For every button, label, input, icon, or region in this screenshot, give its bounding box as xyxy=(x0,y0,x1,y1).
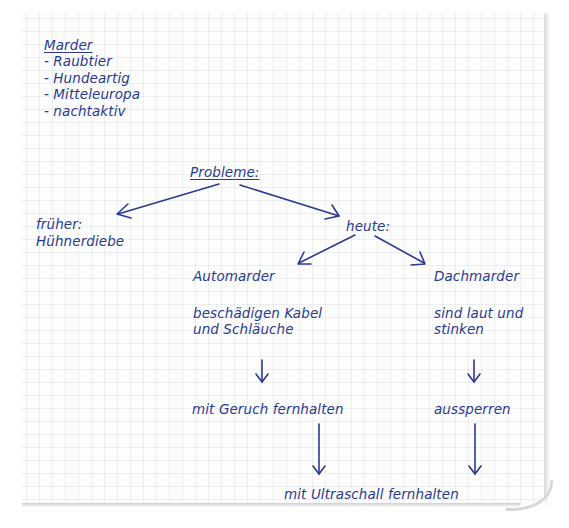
shared-solution: mit Ultraschall fernhalten xyxy=(284,486,459,503)
dachmarder-solution: aussperren xyxy=(434,401,511,418)
automarder-problem-line: beschädigen Kabel xyxy=(193,305,322,322)
node-automarder: Automarder xyxy=(193,268,275,285)
trait-item: - Raubtier xyxy=(44,53,112,70)
paper-corner-curl xyxy=(506,480,553,511)
node-past-label: früher: xyxy=(36,216,83,233)
automarder-solution: mit Geruch fernhalten xyxy=(192,401,344,418)
note-heading: Marder xyxy=(44,37,93,54)
trait-item: - Hundeartig xyxy=(44,70,130,87)
root-node-probleme: Probleme: xyxy=(190,164,259,181)
dachmarder-problem-line: stinken xyxy=(434,321,484,338)
node-present-label: heute: xyxy=(346,218,390,235)
trait-item: - Mitteleuropa xyxy=(44,86,140,103)
node-past-detail: Hühnerdiebe xyxy=(36,233,124,250)
automarder-problem-line: und Schläuche xyxy=(193,321,294,338)
paper-edge-shadow-right xyxy=(544,14,550,496)
dachmarder-problem-line: sind laut und xyxy=(434,305,523,322)
node-dachmarder: Dachmarder xyxy=(434,268,519,285)
paper-edge-shadow-bottom xyxy=(22,503,520,507)
trait-item: - nachtaktiv xyxy=(44,103,126,120)
